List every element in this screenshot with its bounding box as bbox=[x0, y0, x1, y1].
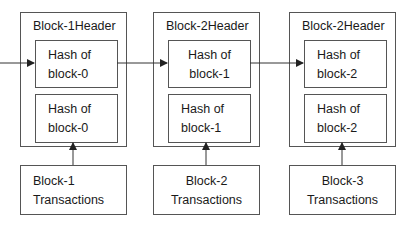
block-3-prev-hash-line1: Hash of bbox=[317, 46, 386, 65]
block-2-prev-hash-line2: block-1 bbox=[169, 65, 250, 84]
block-2-transactions-box: Block-2 Transactions bbox=[153, 165, 260, 215]
block-1-header-label: Block-1Header bbox=[33, 19, 116, 33]
block-2-tx-hash-line1: Hash of bbox=[181, 100, 250, 119]
block-2-header-label: Block-2Header bbox=[166, 19, 249, 33]
block-3-transactions-line1: Block-3 bbox=[290, 172, 395, 191]
block-1-transactions-line1: Block-1 bbox=[33, 172, 126, 191]
block-1-tx-hash-line2: block-0 bbox=[48, 119, 117, 138]
block-3-tx-hash-line2: block-2 bbox=[317, 119, 386, 138]
block-3-header: Block-2Header Hash of block-2 Hash of bl… bbox=[289, 12, 396, 147]
block-3-tx-hash-line1: Hash of bbox=[317, 100, 386, 119]
block-3-header-label: Block-2Header bbox=[302, 19, 385, 33]
block-1-transactions-line2: Transactions bbox=[33, 191, 126, 210]
block-3-prev-hash-box: Hash of block-2 bbox=[304, 40, 387, 88]
block-1-transactions-box: Block-1 Transactions bbox=[20, 165, 127, 215]
block-1-prev-hash-line2: block-0 bbox=[48, 65, 117, 84]
block-2-transactions-line2: Transactions bbox=[154, 191, 259, 210]
block-2-prev-hash-line1: Hash of bbox=[169, 46, 250, 65]
block-2-prev-hash-box: Hash of block-1 bbox=[168, 40, 251, 88]
block-1-prev-hash-line1: Hash of bbox=[48, 46, 117, 65]
block-1-tx-hash-line1: Hash of bbox=[48, 100, 117, 119]
block-3-transactions-line2: Transactions bbox=[290, 191, 395, 210]
block-1-tx-hash-box: Hash of block-0 bbox=[35, 94, 118, 143]
block-1-header: Block-1Header Hash of block-0 Hash of bl… bbox=[20, 12, 127, 147]
block-2-transactions-line1: Block-2 bbox=[154, 172, 259, 191]
block-3-transactions-box: Block-3 Transactions bbox=[289, 165, 396, 215]
block-2-tx-hash-line2: block-1 bbox=[181, 119, 250, 138]
block-2-header: Block-2Header Hash of block-1 Hash of bl… bbox=[153, 12, 260, 147]
block-2-tx-hash-box: Hash of block-1 bbox=[168, 94, 251, 143]
block-3-prev-hash-line2: block-2 bbox=[317, 65, 386, 84]
block-1-prev-hash-box: Hash of block-0 bbox=[35, 40, 118, 88]
block-3-tx-hash-box: Hash of block-2 bbox=[304, 94, 387, 143]
